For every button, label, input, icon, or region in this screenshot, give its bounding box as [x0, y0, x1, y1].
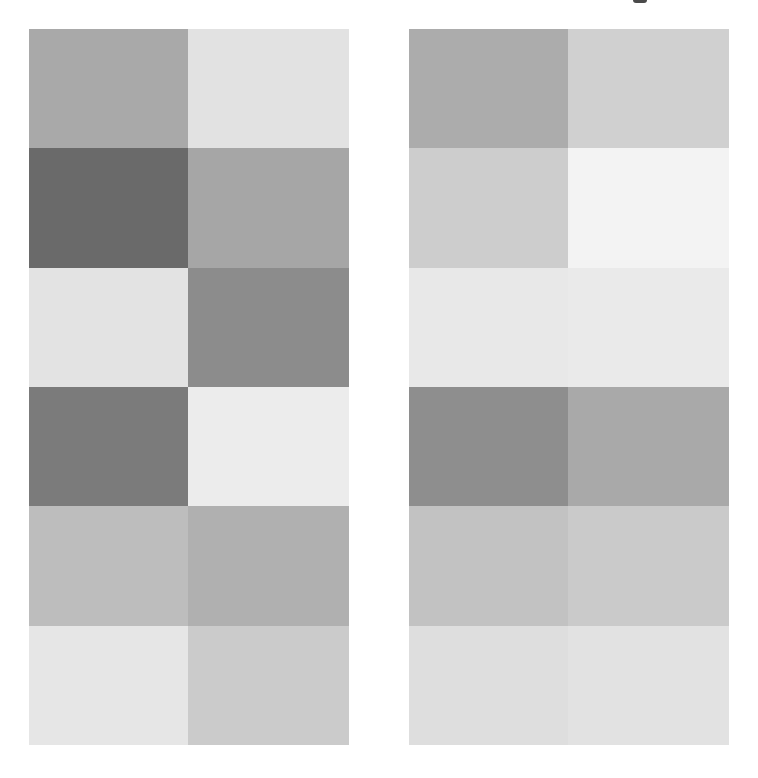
swatch-cell	[409, 387, 568, 506]
swatch-cell	[188, 626, 349, 745]
swatch-cell	[568, 387, 729, 506]
swatch-cell	[188, 387, 349, 506]
swatch-cell	[29, 387, 188, 506]
swatch-cell	[568, 29, 729, 148]
swatch-panel-left	[29, 29, 349, 745]
swatch-cell	[409, 148, 568, 267]
swatch-cell	[29, 268, 188, 387]
clipped-glyph-mark	[633, 0, 647, 3]
swatch-cell	[409, 506, 568, 625]
swatch-cell	[568, 268, 729, 387]
swatch-cell	[188, 506, 349, 625]
swatch-cell	[29, 148, 188, 267]
swatch-cell	[409, 268, 568, 387]
swatch-cell	[29, 626, 188, 745]
swatch-cell	[409, 29, 568, 148]
swatch-cell	[188, 148, 349, 267]
swatch-cell	[29, 29, 188, 148]
swatch-cell	[568, 148, 729, 267]
swatch-cell	[188, 268, 349, 387]
swatch-cell	[409, 626, 568, 745]
swatch-cell	[568, 626, 729, 745]
swatch-cell	[568, 506, 729, 625]
swatch-cell	[188, 29, 349, 148]
swatch-panel-right	[409, 29, 729, 745]
swatch-cell	[29, 506, 188, 625]
